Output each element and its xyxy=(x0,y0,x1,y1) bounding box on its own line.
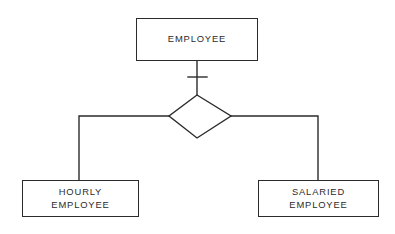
entity-label-employee: EMPLOYEE xyxy=(168,33,226,46)
entity-label-salaried-line2: EMPLOYEE xyxy=(289,199,347,212)
entity-label-hourly-line1: HOURLY xyxy=(59,186,102,199)
entity-label-hourly-line2: EMPLOYEE xyxy=(51,199,109,212)
entity-box-salaried-employee[interactable]: SALARIED EMPLOYEE xyxy=(258,180,379,217)
connector-employee-to-isa-hit-target[interactable] xyxy=(190,60,205,96)
isa-relationship-hit-target[interactable] xyxy=(169,94,231,139)
entity-box-hourly-employee[interactable]: HOURLY EMPLOYEE xyxy=(22,180,139,217)
connector-isa-to-salaried-hit-target[interactable] xyxy=(226,111,324,183)
entity-box-employee[interactable]: EMPLOYEE xyxy=(136,18,258,61)
entity-label-salaried-line1: SALARIED xyxy=(292,186,345,199)
connector-isa-to-hourly-hit-target[interactable] xyxy=(74,111,174,183)
er-diagram-canvas: EMPLOYEE HOURLY EMPLOYEE SALARIED EMPLOY… xyxy=(0,0,395,234)
